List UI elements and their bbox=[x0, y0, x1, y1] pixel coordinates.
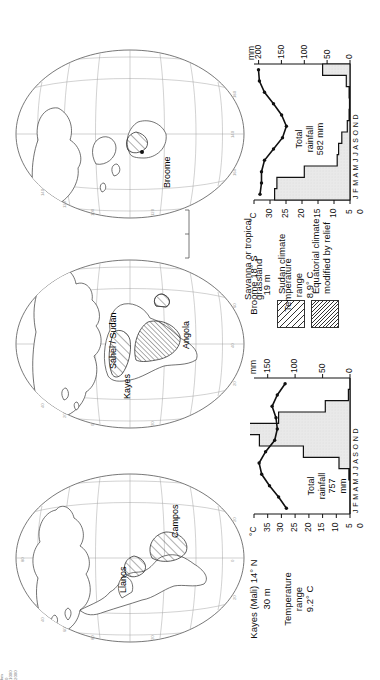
map-label-angola: Angola bbox=[181, 321, 191, 349]
svg-text:40: 40 bbox=[40, 403, 45, 408]
broome-title: Broome 18° S bbox=[248, 226, 259, 344]
kayes-temp-unit: °C bbox=[248, 526, 258, 536]
kayes-temp-tick-25: 25 bbox=[289, 523, 299, 532]
broome-temp-tick-0: 0 bbox=[355, 209, 365, 214]
map-label-sahel-sudan: Sahel / Sudan bbox=[108, 312, 118, 369]
svg-text:80: 80 bbox=[90, 635, 95, 640]
broome-rain-tick-200: 200 bbox=[253, 45, 263, 59]
broome-temp-tick-5: 5 bbox=[344, 209, 354, 214]
broome-temp-tick-25: 25 bbox=[280, 209, 290, 218]
broome-total-rainfall: Total rainfall 582 mm bbox=[294, 112, 326, 166]
kayes-total-rainfall: Total rainfall 757 mm bbox=[306, 464, 348, 508]
broome-rain-tick-150: 150 bbox=[276, 45, 286, 59]
broome-temp-tick-30: 30 bbox=[264, 209, 274, 218]
kayes-temp-tick-10: 10 bbox=[330, 523, 340, 532]
kayes-altitude: 30 m bbox=[261, 540, 272, 658]
map-label-llanos: Llanos bbox=[118, 566, 128, 593]
broome-month-axis: J F M A M J J A S O N D bbox=[352, 114, 359, 199]
svg-text:0: 0 bbox=[90, 423, 95, 426]
climate-chart-broome: Broome 18° S 19 m Temperature range 8.9°… bbox=[246, 44, 374, 344]
kayes-temp-tick-15: 15 bbox=[316, 523, 326, 532]
kayes-rain-tick-150: 150 bbox=[262, 359, 272, 373]
broome-temp-unit: °C bbox=[248, 212, 258, 222]
broome-temp-range: Temperature range 8.9° C bbox=[282, 226, 316, 344]
svg-text:120: 120 bbox=[150, 208, 155, 216]
world-map: 8060 4020 020 2080 bbox=[4, 22, 254, 662]
svg-text:20: 20 bbox=[232, 595, 237, 600]
broome-temp-tick-20: 20 bbox=[296, 209, 306, 218]
svg-text:140: 140 bbox=[40, 188, 45, 196]
kayes-temp-tick-35: 35 bbox=[262, 523, 272, 532]
kayes-rain-tick-50: 50 bbox=[317, 364, 327, 373]
kayes-title: Kayes (Mali) 14° N bbox=[248, 540, 259, 658]
svg-text:20: 20 bbox=[62, 413, 67, 418]
broome-rain-tick-100: 100 bbox=[299, 45, 309, 59]
broome-altitude: 19 m bbox=[261, 226, 272, 344]
svg-text:20: 20 bbox=[232, 517, 237, 522]
svg-text:20: 20 bbox=[150, 421, 155, 426]
climate-chart-kayes: Kayes (Mali) 14° N 30 m Temperature rang… bbox=[246, 358, 374, 658]
svg-text:100: 100 bbox=[90, 208, 95, 216]
svg-text:20: 20 bbox=[150, 635, 155, 640]
svg-text:160: 160 bbox=[232, 168, 237, 176]
kayes-temp-tick-5: 5 bbox=[344, 523, 354, 528]
map-label-broome: Broome bbox=[162, 156, 172, 188]
map-label-kayes: Kayes bbox=[122, 374, 132, 399]
svg-text:120: 120 bbox=[62, 200, 67, 208]
kayes-temp-range: Temperature range 9.2° C bbox=[282, 540, 316, 658]
svg-text:40: 40 bbox=[230, 343, 235, 348]
broome-temp-tick-15: 15 bbox=[312, 209, 322, 218]
kayes-rain-tick-100: 100 bbox=[289, 359, 299, 373]
broome-rain-tick-0: 0 bbox=[344, 54, 354, 59]
kayes-rain-unit: mm bbox=[248, 360, 258, 374]
kayes-temp-tick-20: 20 bbox=[303, 523, 313, 532]
kayes-month-axis: J F M A M J J A S O N D bbox=[352, 428, 359, 513]
svg-text:20: 20 bbox=[232, 381, 237, 386]
svg-text:180: 180 bbox=[232, 90, 237, 98]
svg-text:80: 80 bbox=[20, 557, 25, 562]
svg-text:0: 0 bbox=[230, 559, 235, 562]
broome-plot: °C 30 25 20 15 10 5 0 mm 200 150 100 50 … bbox=[250, 52, 368, 220]
kayes-plot: °C 35 30 25 20 15 10 5 0 mm 150 100 50 0… bbox=[250, 366, 368, 534]
svg-text:60: 60 bbox=[62, 627, 67, 632]
kayes-temp-tick-0: 0 bbox=[355, 523, 365, 528]
svg-text:60: 60 bbox=[232, 303, 237, 308]
svg-text:140: 140 bbox=[230, 130, 235, 138]
map-label-campos: Campos bbox=[170, 504, 180, 538]
kayes-rain-tick-0: 0 bbox=[344, 368, 354, 373]
kayes-temp-tick-30: 30 bbox=[275, 523, 285, 532]
broome-rain-tick-50: 50 bbox=[322, 50, 332, 59]
broome-temp-tick-10: 10 bbox=[328, 209, 338, 218]
figure-frame: 8060 4020 020 2080 bbox=[0, 0, 380, 680]
map-scalebar bbox=[175, 202, 201, 262]
svg-text:40: 40 bbox=[40, 617, 45, 622]
figure-canvas: 8060 4020 020 2080 bbox=[0, 0, 380, 680]
